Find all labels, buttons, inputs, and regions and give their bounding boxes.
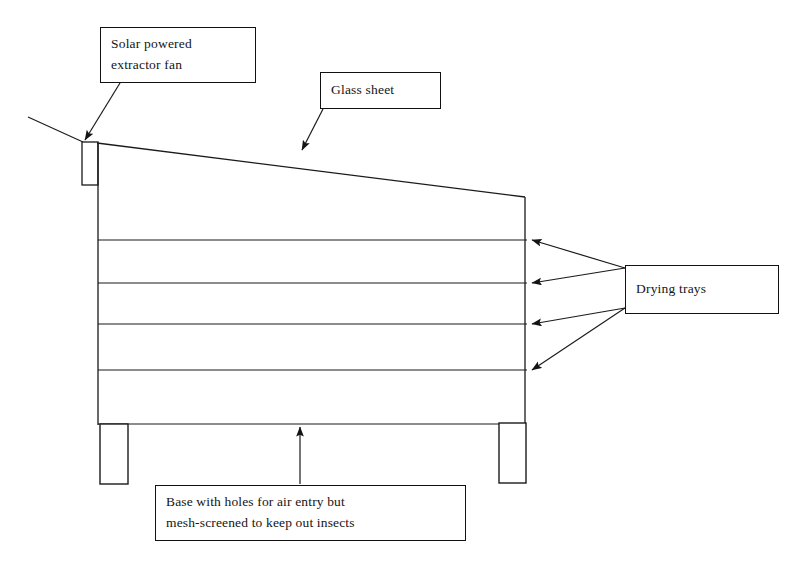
glass-leader-arrow — [302, 109, 323, 150]
right-leg — [499, 423, 526, 483]
callout-glass-sheet: Glass sheet — [320, 72, 441, 109]
left-leg — [100, 424, 128, 484]
callout-fan-line2: extractor fan — [111, 55, 245, 76]
tray-leader-arrow-2 — [532, 268, 625, 283]
callout-glass-line1: Glass sheet — [331, 80, 430, 101]
callout-fan-line1: Solar powered — [111, 34, 245, 55]
callout-drying-trays: Drying trays — [625, 265, 779, 314]
callout-base-with-holes: Base with holes for air entry but mesh-s… — [155, 485, 466, 541]
callout-base-line1: Base with holes for air entry but — [166, 492, 455, 513]
callout-trays-line1: Drying trays — [636, 279, 768, 300]
glass-sheet-line — [97, 143, 525, 197]
callout-solar-powered-extractor-fan: Solar powered extractor fan — [100, 27, 256, 83]
dryer-cabinet — [28, 117, 527, 484]
fan-leader-arrow — [85, 83, 120, 140]
tray-leader-arrow-3 — [532, 308, 625, 324]
tray-leader-arrow-4 — [532, 308, 625, 370]
callout-base-line2: mesh-screened to keep out insects — [166, 513, 455, 534]
diagram-canvas: Solar powered extractor fan Glass sheet … — [0, 0, 806, 584]
roof-overhang-line — [28, 117, 83, 142]
tray-leader-arrow-1 — [532, 240, 625, 268]
extractor-fan-body — [82, 142, 98, 185]
